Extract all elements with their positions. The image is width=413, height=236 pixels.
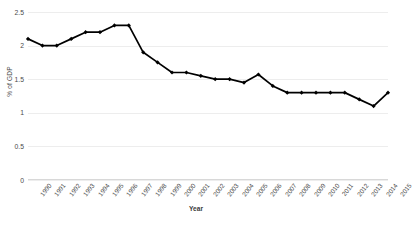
x-axis-tick: 1992 [67,182,81,198]
x-axis-tick: 2008 [298,182,312,198]
data-point-marker [314,91,318,95]
data-point-marker [213,77,217,81]
data-point-marker [199,74,203,78]
x-axis-tick: 2014 [384,182,398,198]
y-axis-tick: 2.5 [4,9,24,16]
x-axis-tick: 2005 [254,182,268,198]
y-axis-tick-labels: 00.511.522.5 [4,0,24,236]
x-axis-tick: 1995 [110,182,124,198]
x-axis-tick: 1994 [96,182,110,198]
x-axis-tick: 2013 [370,182,384,198]
x-axis-tick: 2006 [269,182,283,198]
y-axis-tick: 0.5 [4,143,24,150]
x-axis-tick: 2009 [312,182,326,198]
x-axis-tick: 2003 [226,182,240,198]
x-axis-tick: 1993 [82,182,96,198]
data-point-marker [328,91,332,95]
y-axis-tick: 1.5 [4,76,24,83]
x-axis-tick: 2010 [326,182,340,198]
x-axis-tick: 2004 [240,182,254,198]
y-axis-tick: 2 [4,42,24,49]
data-series-line [28,12,388,180]
x-axis-tick: 2015 [398,182,412,198]
x-axis-tick: 2002 [211,182,225,198]
x-axis-tick: 2001 [197,182,211,198]
data-point-marker [300,91,304,95]
y-axis-tick: 0 [4,177,24,184]
series-path [28,25,388,106]
x-axis-tick: 1997 [139,182,153,198]
x-axis-tick: 1998 [154,182,168,198]
y-axis-tick: 1 [4,109,24,116]
x-axis-tick: 1990 [38,182,52,198]
x-axis-tick: 2011 [341,182,355,197]
x-axis-tick: 2000 [182,182,196,198]
data-point-marker [184,70,188,74]
gridline [28,180,388,181]
data-point-marker [228,77,232,81]
x-axis-tick: 1996 [125,182,139,198]
x-axis-tick: 1999 [168,182,182,198]
x-axis-tick: 1991 [53,182,67,198]
plot-area [28,12,388,180]
x-axis-tick: 2007 [283,182,297,198]
x-axis-label: Year [0,205,392,212]
x-axis-tick: 2012 [355,182,369,198]
